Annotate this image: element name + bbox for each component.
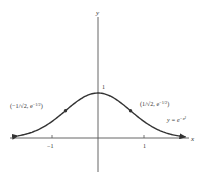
chart: y x −1 1 1 (−1/√2, e−1/2) (1/√2, e−1/2) … (0, 0, 204, 182)
inflection-point-left (64, 109, 67, 112)
inflection-point-right (129, 109, 132, 112)
x-tick-label-neg1: −1 (47, 143, 53, 149)
inflection-label-right: (1/√2, e−1/2) (140, 100, 169, 109)
inflection-label-left: (−1/√2, e−1/2) (10, 102, 43, 111)
x-axis-label: x (190, 135, 195, 143)
y-tick-label-1: 1 (102, 84, 105, 90)
function-label: y = e−x² (166, 116, 187, 124)
x-tick-label-1: 1 (143, 143, 146, 149)
y-axis-label: y (95, 9, 100, 17)
